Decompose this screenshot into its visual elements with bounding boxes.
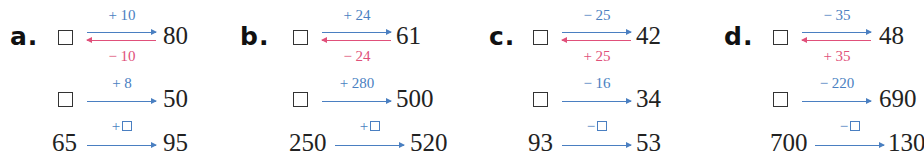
forward-operation: + 10	[87, 7, 157, 24]
operation-sign: −	[587, 118, 595, 134]
forward-operation: +	[87, 118, 157, 135]
forward-arrow-icon	[87, 32, 156, 33]
operation-sign: −	[840, 118, 848, 134]
forward-operation: −	[562, 118, 632, 135]
answer-box[interactable]	[58, 92, 73, 107]
inverse-operation: − 24	[322, 48, 392, 65]
forward-operation: + 24	[322, 7, 392, 24]
inverse-arrow-icon	[322, 40, 391, 41]
end-value: 95	[163, 129, 188, 168]
answer-box[interactable]	[773, 92, 788, 107]
end-value: 130	[888, 129, 924, 168]
inverse-arrow-icon	[87, 40, 156, 41]
start-value: 65	[52, 129, 77, 168]
forward-arrow-icon	[562, 32, 631, 33]
problem-letter: b.	[240, 22, 269, 51]
forward-arrow-icon	[87, 101, 156, 102]
problem-letter: c.	[489, 22, 515, 51]
forward-arrow-icon	[322, 101, 391, 102]
end-value: 53	[636, 129, 661, 168]
forward-operation: +	[335, 118, 405, 135]
operation-sign: +	[360, 118, 368, 134]
answer-box[interactable]	[58, 30, 73, 45]
answer-box[interactable]	[773, 30, 788, 45]
inverse-operation: − 10	[87, 48, 157, 65]
end-value: 520	[410, 129, 448, 168]
inverse-operation: + 25	[562, 48, 632, 65]
start-value: 93	[528, 129, 553, 168]
forward-arrow-icon	[802, 32, 871, 33]
forward-operation: − 16	[562, 75, 632, 92]
forward-operation: + 280	[322, 75, 392, 92]
start-value: 700	[770, 129, 808, 168]
inverse-operation: + 35	[802, 48, 872, 65]
operand-box[interactable]	[850, 121, 860, 131]
forward-arrow-icon	[322, 32, 391, 33]
forward-operation: − 220	[802, 75, 872, 92]
forward-operation: −	[815, 118, 885, 135]
answer-box[interactable]	[533, 30, 548, 45]
forward-arrow-icon	[87, 145, 156, 146]
answer-box[interactable]	[293, 92, 308, 107]
forward-operation: + 8	[87, 75, 157, 92]
forward-arrow-icon	[335, 145, 404, 146]
operand-box[interactable]	[370, 121, 380, 131]
operation-sign: +	[112, 118, 120, 134]
forward-arrow-icon	[815, 145, 884, 146]
inverse-arrow-icon	[802, 40, 871, 41]
forward-operation: − 35	[802, 7, 872, 24]
forward-arrow-icon	[562, 101, 631, 102]
start-value: 250	[289, 129, 327, 168]
operand-box[interactable]	[122, 121, 132, 131]
answer-box[interactable]	[533, 92, 548, 107]
problem-letter: a.	[10, 22, 38, 51]
operand-box[interactable]	[597, 121, 607, 131]
inverse-arrow-icon	[562, 40, 631, 41]
answer-box[interactable]	[293, 30, 308, 45]
forward-operation: − 25	[562, 7, 632, 24]
problem-letter: d.	[724, 22, 753, 51]
forward-arrow-icon	[562, 145, 631, 146]
forward-arrow-icon	[802, 101, 871, 102]
